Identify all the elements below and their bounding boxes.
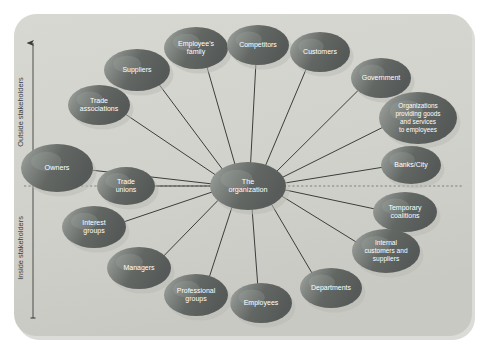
node-label-employees: Employees <box>244 299 279 307</box>
axis-label-outside: Outside stakeholders <box>16 77 25 147</box>
node-label-owners: Owners <box>45 163 70 172</box>
node-label-government: Government <box>362 74 401 81</box>
node-label-competitors: Competitors <box>239 41 277 49</box>
node-label-trade-unions: Tradeunions <box>116 178 137 194</box>
node-label-managers: Managers <box>123 264 155 272</box>
stakeholder-map: Outside stakeholdersInside stakeholders … <box>0 0 486 358</box>
node-label-suppliers: Suppliers <box>122 66 152 74</box>
node-label-temporary-coalitions: Temporarycoalitions <box>388 204 422 220</box>
node-label-interest-groups: Interestgroups <box>82 219 105 236</box>
diagram-stage: Outside stakeholdersInside stakeholders … <box>0 0 486 358</box>
node-label-departments: Departments <box>311 284 352 292</box>
node-label-organizations-providing-goods: Organizationsproviding goodsand services… <box>395 102 440 134</box>
node-label-banks-city: Banks/City <box>394 161 428 169</box>
axis-label-inside: Inside stakeholders <box>16 216 25 280</box>
node-label-customers: Customers <box>303 48 337 55</box>
